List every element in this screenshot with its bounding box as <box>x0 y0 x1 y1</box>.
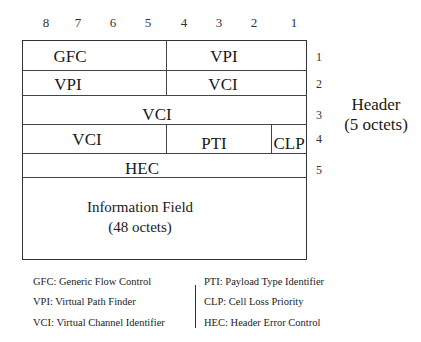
field-gfc: GFC <box>53 47 86 67</box>
bit-number: 7 <box>75 15 82 31</box>
octet-number: 5 <box>316 163 322 178</box>
field-vpi: VPI <box>54 75 81 95</box>
octet-number: 2 <box>316 77 322 92</box>
field-clp: CLP <box>273 134 304 154</box>
row-divider <box>22 153 307 154</box>
legend-item: GFC: Generic Flow Control <box>33 276 151 287</box>
field-vci: VCI <box>72 130 101 150</box>
legend-item: VPI: Virtual Path Finder <box>33 296 136 307</box>
header-payload-divider <box>22 177 307 178</box>
header-label-size: (5 octets) <box>333 115 419 135</box>
column-divider <box>166 124 167 153</box>
legend-item: PTI: Payload Type Identifier <box>204 276 324 287</box>
header-label: Header (5 octets) <box>333 95 419 135</box>
bit-number: 5 <box>145 15 152 31</box>
legend-item: CLP: Cell Loss Priority <box>204 296 303 307</box>
column-divider <box>166 40 167 95</box>
row-divider <box>22 95 307 96</box>
field-vci: VCI <box>142 105 171 125</box>
bit-number: 8 <box>43 15 50 31</box>
octet-number: 3 <box>316 108 322 123</box>
field-vci: VCI <box>208 75 237 95</box>
octet-number: 1 <box>316 50 322 65</box>
column-divider <box>271 124 272 153</box>
information-field-title: Information Field <box>87 197 193 217</box>
legend-separator <box>195 285 196 328</box>
field-vpi: VPI <box>210 47 237 67</box>
field-pti: PTI <box>201 134 227 154</box>
row-divider <box>22 70 307 71</box>
bit-number: 6 <box>110 15 117 31</box>
legend-item: VCI: Virtual Channel Identifier <box>33 317 165 328</box>
bit-number: 4 <box>181 15 188 31</box>
bit-number: 1 <box>291 15 298 31</box>
bit-number: 2 <box>251 15 258 31</box>
legend-item: HEC: Header Error Control <box>204 317 320 328</box>
bit-number: 3 <box>216 15 223 31</box>
header-label-title: Header <box>333 95 419 115</box>
information-field-size: (48 octets) <box>87 217 193 237</box>
information-field: Information Field (48 octets) <box>87 197 193 237</box>
octet-number: 4 <box>316 132 322 147</box>
field-hec: HEC <box>125 159 159 179</box>
